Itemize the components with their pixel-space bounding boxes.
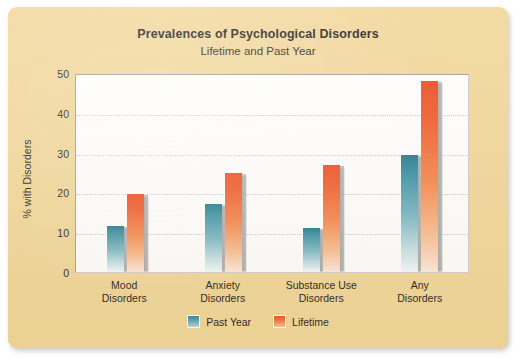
y-axis-tick-20: 20 — [36, 187, 69, 199]
x-axis-tick-label: AnyDisorders — [374, 279, 466, 305]
legend-swatch-icon — [273, 315, 286, 328]
legend-item: Lifetime — [273, 315, 329, 328]
bar — [205, 204, 222, 272]
bar-group — [205, 75, 242, 272]
x-axis-tick-label-line: Disorders — [78, 292, 170, 305]
legend: Past YearLifetime — [8, 315, 508, 328]
x-axis-tick-label: Substance UseDisorders — [275, 279, 367, 305]
y-axis-tick-40: 40 — [36, 108, 69, 120]
legend-item: Past Year — [187, 315, 251, 328]
y-axis-tick-50: 50 — [36, 68, 69, 80]
bar — [401, 155, 418, 272]
bar-group — [303, 75, 340, 272]
x-axis-tick-label-line: Anxiety — [177, 279, 269, 292]
x-axis-tick-label: MoodDisorders — [78, 279, 170, 305]
y-axis-tick-10: 10 — [36, 227, 69, 239]
bar — [421, 81, 438, 272]
legend-swatch-icon — [187, 315, 200, 328]
legend-label: Lifetime — [292, 316, 329, 328]
bar-group — [401, 75, 438, 272]
page-title: Prevalences of Psychological Disorders — [8, 27, 508, 41]
y-axis-tick-0: 0 — [36, 267, 69, 279]
bar — [303, 228, 320, 272]
bar — [323, 165, 340, 272]
y-axis-tick-30: 30 — [36, 148, 69, 160]
bar — [127, 194, 144, 272]
chart-figure: Prevalences of Psychological Disorders L… — [8, 7, 508, 348]
title-block: Prevalences of Psychological Disorders L… — [8, 27, 508, 57]
bar-group — [107, 75, 144, 272]
x-axis-tick-label-line: Mood — [78, 279, 170, 292]
x-axis-tick-label-line: Substance Use — [275, 279, 367, 292]
bar-groups — [76, 75, 468, 272]
y-axis-label: % with Disorders — [21, 99, 33, 259]
bar — [107, 226, 124, 272]
x-axis-tick-label-line: Any — [374, 279, 466, 292]
x-axis-tick-label-line: Disorders — [374, 292, 466, 305]
y-axis-tick-labels: 01020304050 — [36, 74, 69, 273]
chart-subtitle: Lifetime and Past Year — [8, 45, 508, 57]
plot-area — [75, 74, 469, 273]
bar — [225, 173, 242, 273]
x-axis-tick-label: AnxietyDisorders — [177, 279, 269, 305]
x-axis-tick-label-line: Disorders — [177, 292, 269, 305]
legend-label: Past Year — [206, 316, 251, 328]
x-axis-tick-label-line: Disorders — [275, 292, 367, 305]
x-axis-tick-labels: MoodDisordersAnxietyDisordersSubstance U… — [75, 279, 469, 305]
